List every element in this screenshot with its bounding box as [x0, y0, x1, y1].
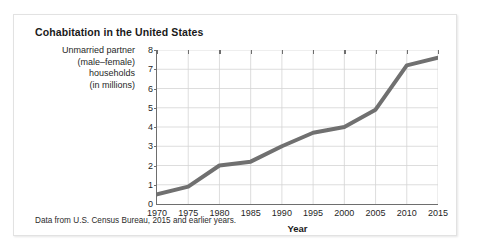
x-tick-mark: [376, 50, 377, 54]
x-tick-label: 1995: [303, 208, 323, 218]
y-tick-label: 5: [148, 103, 153, 113]
x-tick-label: 1990: [272, 208, 292, 218]
x-tick-mark: [219, 50, 220, 54]
figure-card: Cohabitation in the United States Unmarr…: [13, 14, 457, 236]
x-axis-title: Year: [287, 223, 307, 234]
figure-page: Cohabitation in the United States Unmarr…: [0, 0, 484, 249]
y-axis-title-line-1: Unmarried partner: [38, 45, 135, 57]
x-tick-mark: [251, 50, 252, 54]
line-series: [157, 50, 438, 204]
source-note: Data from U.S. Census Bureau, 2015 and e…: [35, 216, 236, 225]
y-tick-mark: [154, 166, 158, 167]
y-tick-label: 7: [148, 64, 153, 74]
x-tick-label: 2015: [428, 208, 448, 218]
y-tick-mark: [154, 108, 158, 109]
x-tick-mark: [157, 50, 158, 54]
page-title: Cohabitation in the United States: [35, 26, 203, 38]
x-tick-mark: [438, 50, 439, 54]
y-tick-mark: [154, 127, 158, 128]
x-tick-label: 2000: [334, 208, 354, 218]
y-axis-title-line-3: households: [38, 68, 135, 80]
y-tick-mark: [154, 185, 158, 186]
y-tick-mark: [154, 146, 158, 147]
x-tick-label: 2005: [366, 208, 386, 218]
y-tick-mark: [154, 69, 158, 70]
plot-wrapper: Year 01234567819701975198019851990199520…: [136, 45, 446, 245]
y-tick-mark: [154, 89, 158, 90]
x-tick-label: 2010: [397, 208, 417, 218]
y-axis-title-line-2: (male–female): [38, 57, 135, 69]
y-tick-label: 2: [148, 161, 153, 171]
y-tick-label: 6: [148, 84, 153, 94]
x-tick-mark: [344, 50, 345, 54]
y-tick-label: 4: [148, 122, 153, 132]
x-tick-mark: [407, 50, 408, 54]
y-axis-title-line-4: (in millions): [38, 80, 135, 92]
plot-area: Year 01234567819701975198019851990199520…: [156, 50, 438, 205]
y-tick-label: 1: [148, 180, 153, 190]
x-tick-mark: [188, 50, 189, 54]
y-tick-label: 8: [148, 45, 153, 55]
x-tick-label: 1985: [241, 208, 261, 218]
x-tick-mark: [313, 50, 314, 54]
y-axis-title: Unmarried partner (male–female) househol…: [38, 45, 135, 91]
y-tick-label: 3: [148, 141, 153, 151]
x-tick-mark: [282, 50, 283, 54]
